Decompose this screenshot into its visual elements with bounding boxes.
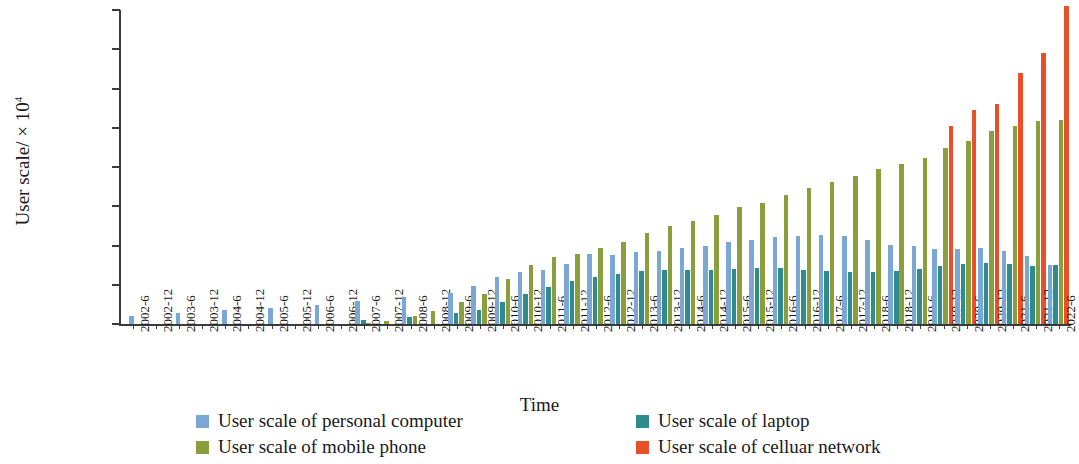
- x-axis-tick: [1036, 324, 1037, 329]
- bar: [639, 271, 644, 324]
- bar-chart-figure: User scale/ × 104 020 00040 00060 00080 …: [0, 0, 1079, 464]
- bar: [222, 310, 227, 324]
- bar: [961, 264, 966, 324]
- bar-group: [978, 10, 1001, 324]
- bar-group: [654, 10, 677, 324]
- bar: [796, 236, 801, 324]
- bar: [448, 293, 453, 324]
- bar: [1048, 265, 1053, 324]
- legend-label: User scale of laptop: [658, 410, 809, 432]
- bar: [541, 270, 546, 324]
- bar: [888, 245, 893, 324]
- y-axis-tick: [112, 166, 120, 168]
- bar: [471, 286, 476, 324]
- x-axis-tick: [411, 324, 412, 329]
- x-axis-tick: [1059, 324, 1060, 329]
- bar-group: [886, 10, 909, 324]
- bar-group: [747, 10, 770, 324]
- bar-group: [144, 10, 167, 324]
- x-axis-tick: [851, 324, 852, 329]
- bar: [894, 271, 899, 324]
- bar: [355, 301, 360, 324]
- bar-group: [723, 10, 746, 324]
- bar-group: [561, 10, 584, 324]
- x-axis-tick: [457, 324, 458, 329]
- bar-group: [793, 10, 816, 324]
- bar: [570, 281, 575, 324]
- bar-group: [376, 10, 399, 324]
- bar: [755, 268, 760, 324]
- x-axis-tick: [642, 324, 643, 329]
- bar: [315, 305, 320, 324]
- bar-groups: 2002-62002-122003-62003-122004-62004-122…: [121, 10, 1071, 324]
- bar-group: [306, 10, 329, 324]
- x-axis-tick: [967, 324, 968, 329]
- bar-group: [1048, 10, 1071, 324]
- legend-item[interactable]: User scale of personal computer: [196, 410, 636, 432]
- bar: [1002, 251, 1007, 324]
- x-axis-tick: [364, 324, 365, 329]
- bar-group: [932, 10, 955, 324]
- legend-item[interactable]: User scale of celluar network: [636, 436, 1056, 458]
- bar: [726, 242, 731, 324]
- bar: [1053, 265, 1058, 324]
- bar: [454, 313, 459, 324]
- y-axis-tick: [112, 205, 120, 207]
- bar: [1030, 266, 1035, 324]
- bar: [865, 240, 870, 324]
- bar: [564, 264, 569, 324]
- bar-group: [1001, 10, 1024, 324]
- legend-color-swatch: [196, 415, 209, 428]
- bar-group: [469, 10, 492, 324]
- y-axis-tick: [112, 127, 120, 129]
- bar: [518, 272, 523, 324]
- x-axis-tick: [248, 324, 249, 329]
- x-axis-tick: [434, 324, 435, 329]
- plot-area: 2002-62002-122003-62003-122004-62004-122…: [119, 10, 1071, 326]
- bar-group: [214, 10, 237, 324]
- bar-group: [422, 10, 445, 324]
- legend-color-swatch: [636, 415, 649, 428]
- x-axis-tick: [758, 324, 759, 329]
- x-axis-tick: [735, 324, 736, 329]
- x-axis-tick: [202, 324, 203, 329]
- bar: [938, 266, 943, 324]
- bar: [972, 110, 977, 324]
- bar-group: [909, 10, 932, 324]
- x-axis-tick: [573, 324, 574, 329]
- bar-group: [839, 10, 862, 324]
- bar-group: [399, 10, 422, 324]
- bar-group: [631, 10, 654, 324]
- bar: [587, 254, 592, 324]
- x-axis-tick: [666, 324, 667, 329]
- x-axis-tick: [179, 324, 180, 329]
- bar: [842, 236, 847, 324]
- legend-color-swatch: [636, 441, 649, 454]
- bar-group: [1025, 10, 1048, 324]
- bar-group: [584, 10, 607, 324]
- bar: [680, 248, 685, 324]
- bar-group: [955, 10, 978, 324]
- x-axis-tick: [990, 324, 991, 329]
- bar: [685, 270, 690, 324]
- bar-group: [445, 10, 468, 324]
- bar: [703, 246, 708, 325]
- x-axis-tick: [689, 324, 690, 329]
- legend-item[interactable]: User scale of laptop: [636, 410, 1056, 432]
- bar-group: [770, 10, 793, 324]
- bar: [500, 302, 505, 324]
- y-axis-tick: [112, 245, 120, 247]
- bar-group: [677, 10, 700, 324]
- bar: [477, 310, 482, 324]
- legend-item[interactable]: User scale of mobile phone: [196, 436, 636, 458]
- bar: [176, 313, 181, 324]
- bar-group: [515, 10, 538, 324]
- bar: [709, 270, 714, 324]
- x-axis-tick: [318, 324, 319, 329]
- bar: [634, 252, 639, 324]
- bar: [801, 270, 806, 324]
- x-axis-tick: [897, 324, 898, 329]
- bar: [778, 268, 783, 324]
- x-axis-tick: [712, 324, 713, 329]
- bar: [268, 308, 273, 324]
